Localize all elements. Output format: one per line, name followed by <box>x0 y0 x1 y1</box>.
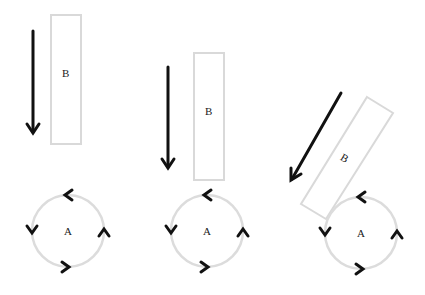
panel-3: B A <box>291 93 402 274</box>
block-b-label: B <box>205 105 212 117</box>
circle-a-label: A <box>64 225 72 237</box>
circle-a-label: A <box>203 225 211 237</box>
block-b-label: B <box>62 67 69 79</box>
panel-1: B A <box>27 15 109 272</box>
motion-arrow <box>162 67 174 168</box>
block-b <box>51 15 81 144</box>
motion-arrow <box>27 31 39 133</box>
diagram-canvas: B A B A B <box>0 0 425 295</box>
panel-2: B A <box>162 53 248 272</box>
circle-a-label: A <box>357 227 365 239</box>
